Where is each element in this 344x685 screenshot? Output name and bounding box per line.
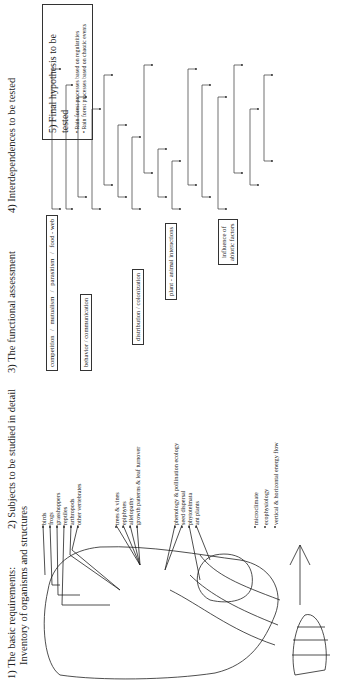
interdependence-brackets bbox=[52, 65, 272, 209]
palm-trunk bbox=[290, 545, 310, 605]
interdependence-dots bbox=[59, 64, 273, 210]
research-framework-diagram: 1) The basic requirements: Inventory of … bbox=[0, 0, 344, 685]
vine-lines bbox=[170, 555, 280, 645]
forest-outline bbox=[44, 547, 278, 679]
diagram-line-art bbox=[0, 0, 344, 685]
tree-canopy bbox=[293, 615, 326, 675]
